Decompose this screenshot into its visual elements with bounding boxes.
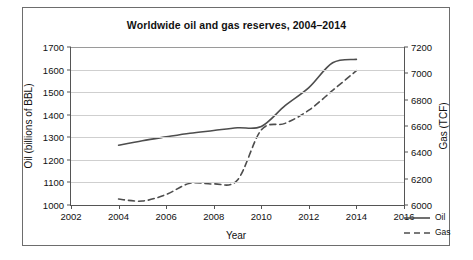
x-tick-label: 2010 [251, 211, 272, 222]
legend-item-gas: Gas [403, 225, 469, 240]
gridline [71, 182, 404, 183]
x-tick-label: 2004 [108, 211, 129, 222]
chart-legend: Oil Gas [403, 210, 469, 240]
x-tick-mark [71, 205, 72, 209]
y-tick-label-right: 6200 [411, 173, 432, 184]
gridline [71, 70, 404, 71]
series-lines [71, 47, 404, 205]
y-tick-label-right: 6800 [411, 94, 432, 105]
y-tick-mark-left [67, 47, 71, 48]
y-tick-label-left: 1000 [43, 200, 64, 211]
x-tick-label: 2012 [298, 211, 319, 222]
plot-top-border [71, 47, 404, 48]
y-tick-label-left: 1500 [43, 87, 64, 98]
y-tick-label-right: 6600 [411, 121, 432, 132]
x-tick-mark [261, 205, 262, 209]
y-tick-mark-left [67, 92, 71, 93]
y-tick-label-right: 6000 [411, 200, 432, 211]
y-axis-label-right: Gas (TCF) [438, 102, 449, 149]
y-tick-mark-right [404, 178, 408, 179]
y-tick-mark-right [404, 73, 408, 74]
y-tick-label-left: 1300 [43, 132, 64, 143]
y-tick-mark-left [67, 159, 71, 160]
y-tick-mark-right [404, 47, 408, 48]
gridline [71, 137, 404, 138]
x-tick-label: 2008 [203, 211, 224, 222]
legend-label-gas: Gas [435, 228, 451, 237]
chart-title: Worldwide oil and gas reserves, 2004–201… [0, 19, 473, 31]
legend-swatch-gas [403, 229, 431, 237]
y-tick-mark-right [404, 99, 408, 100]
x-tick-mark [356, 205, 357, 209]
gridline [71, 115, 404, 116]
x-tick-mark [214, 205, 215, 209]
y-axis-label-left: Oil (billions of BBL) [23, 83, 34, 168]
y-tick-mark-left [67, 69, 71, 70]
x-tick-mark [119, 205, 120, 209]
y-tick-label-left: 1400 [43, 109, 64, 120]
chart-figure: Worldwide oil and gas reserves, 2004–201… [0, 0, 473, 260]
x-tick-mark [404, 205, 405, 209]
y-tick-label-left: 1600 [43, 64, 64, 75]
plot-area: 10001100120013001400150016001700 6000620… [70, 47, 405, 206]
y-tick-mark-right [404, 126, 408, 127]
gridline [71, 160, 404, 161]
y-tick-mark-left [67, 182, 71, 183]
y-tick-label-left: 1700 [43, 42, 64, 53]
y-tick-mark-right [404, 152, 408, 153]
legend-label-oil: Oil [435, 213, 445, 222]
y-tick-label-right: 7000 [411, 68, 432, 79]
x-axis-label: Year [226, 230, 246, 241]
x-tick-label: 2002 [60, 211, 81, 222]
x-tick-label: 2006 [156, 211, 177, 222]
y-tick-label-left: 1100 [44, 177, 64, 188]
y-tick-mark-left [67, 137, 71, 138]
x-tick-label: 2014 [346, 211, 367, 222]
legend-swatch-oil [403, 214, 431, 222]
y-tick-label-left: 1200 [43, 154, 64, 165]
y-tick-mark-left [67, 114, 71, 115]
x-tick-mark [166, 205, 167, 209]
line-oil [119, 59, 357, 145]
legend-item-oil: Oil [403, 210, 469, 225]
y-tick-label-right: 7200 [411, 42, 432, 53]
y-tick-label-right: 6400 [411, 147, 432, 158]
gridline [71, 92, 404, 93]
x-tick-mark [309, 205, 310, 209]
